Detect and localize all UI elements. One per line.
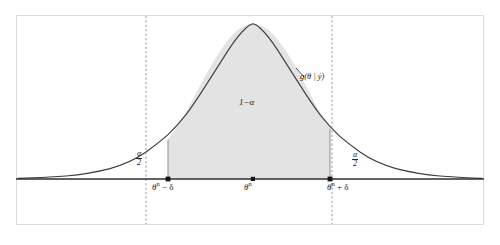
label-theta-upper: θn + δ [327,181,348,192]
label-alpha-half-left-denominator: 2 [136,158,142,167]
label-alpha-half-left: α 2 [136,150,142,168]
label-theta-lower: θn − δ [152,181,173,192]
label-density-function: g(θ | ẏ) [300,72,324,81]
label-theta-lower-offset: − δ [160,182,174,192]
label-theta-center: θn [244,181,252,192]
label-theta-center-superscript: n [248,180,251,187]
label-alpha-half-left-numerator: α [136,150,142,158]
label-alpha-half-right: α 2 [352,151,358,169]
density-plot [0,0,500,245]
label-alpha-half-right-denominator: 2 [352,159,358,168]
label-alpha-half-right-numerator: α [352,151,358,159]
label-confidence-level: 1−α [239,98,254,107]
label-theta-upper-offset: + δ [335,182,349,192]
figure-container: θn − δ θn θn + δ g(θ | ẏ) 1−α α 2 α 2 [0,0,500,245]
